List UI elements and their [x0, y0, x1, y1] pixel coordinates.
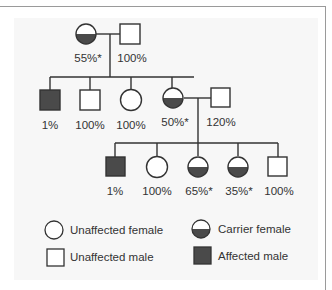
carrier-female-symbol	[76, 24, 96, 44]
g2-son-1-label: 1%	[42, 119, 59, 131]
pedigree-chart: 55%* 100% 1% 100% 100% 50%* 120% 1% 100%…	[0, 0, 332, 290]
g3-daughter-1-label: 100%	[142, 185, 171, 197]
carrier-female-symbol	[188, 157, 208, 177]
legend-unaffected-male-label: Unaffected male	[70, 251, 154, 263]
g3-daughter-3-label: 35%*	[225, 185, 253, 197]
legend-unaffected-female-label: Unaffected female	[70, 224, 163, 236]
unaffected-female-symbol	[147, 157, 168, 178]
unaffected-male-symbol	[120, 24, 140, 44]
legend-unaffected-male-icon	[47, 249, 64, 266]
g1-mother-label: 55%*	[74, 52, 102, 64]
carrier-female-symbol	[228, 157, 248, 177]
g2-daughter-2-label: 50%*	[161, 116, 189, 128]
unaffected-male-symbol	[211, 88, 230, 107]
legend-carrier-female-icon	[192, 220, 210, 238]
g2-son-2-label: 100%	[75, 119, 104, 131]
legend-affected-male-label: Affected male	[218, 250, 288, 262]
legend: Unaffected female Carrier female Unaffec…	[45, 220, 291, 266]
legend-unaffected-female-icon	[45, 221, 63, 239]
g2-spouse-label: 120%	[206, 116, 235, 128]
affected-male-symbol	[40, 90, 60, 110]
g3-son-1-label: 1%	[107, 185, 124, 197]
g1-father-label: 100%	[117, 52, 146, 64]
unaffected-female-symbol	[121, 90, 142, 111]
affected-male-symbol	[106, 157, 125, 176]
unaffected-male-symbol	[268, 157, 287, 176]
legend-affected-male-icon	[194, 247, 211, 264]
legend-carrier-female-label: Carrier female	[218, 223, 291, 235]
g2-daughter-1-label: 100%	[116, 119, 145, 131]
g3-son-2-label: 100%	[264, 185, 293, 197]
unaffected-male-symbol	[80, 90, 100, 110]
carrier-female-symbol	[163, 88, 183, 108]
g3-daughter-2-label: 65%*	[185, 185, 213, 197]
